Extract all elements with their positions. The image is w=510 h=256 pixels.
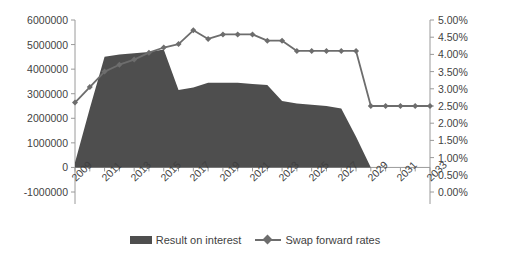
right-axis-tick-label: 5.00%: [438, 15, 468, 25]
right-axis-tick-label: 2.00%: [438, 118, 468, 128]
right-axis-tick-label: 4.50%: [438, 32, 468, 42]
chart-container: -100000001000000200000030000004000000500…: [0, 0, 510, 256]
area-swatch-icon: [130, 236, 152, 244]
right-axis-tick-label: 2.50%: [438, 101, 468, 111]
left-axis-tick-label: 0: [0, 162, 68, 172]
left-axis-tick-label: 6000000: [0, 15, 68, 25]
legend-label: Result on interest: [156, 234, 242, 246]
chart-plot-area: [0, 0, 510, 256]
right-axis-tick-label: 3.00%: [438, 84, 468, 94]
right-axis-tick-label: 0.00%: [438, 187, 468, 197]
left-axis-tick-label: 3000000: [0, 89, 68, 99]
left-axis-tick-label: -1000000: [0, 187, 68, 197]
series-area-result-on-interest: [75, 49, 430, 167]
chart-legend: Result on interest Swap forward rates: [0, 228, 510, 252]
legend-label: Swap forward rates: [285, 234, 380, 246]
right-axis-tick-label: 1.50%: [438, 135, 468, 145]
legend-item-swap-forward-rates: Swap forward rates: [255, 234, 380, 246]
left-axis-tick-label: 2000000: [0, 113, 68, 123]
left-axis-tick-label: 4000000: [0, 64, 68, 74]
left-axis-tick-label: 5000000: [0, 40, 68, 50]
left-axis-tick-label: 1000000: [0, 138, 68, 148]
right-axis-tick-label: 4.00%: [438, 49, 468, 59]
legend-item-result-on-interest: Result on interest: [130, 234, 242, 246]
line-swatch-icon: [255, 235, 281, 245]
right-axis-tick-label: 3.50%: [438, 67, 468, 77]
